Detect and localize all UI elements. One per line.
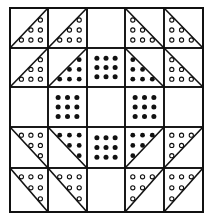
open-dot bbox=[170, 175, 174, 179]
open-dot bbox=[19, 133, 23, 137]
open-dot bbox=[29, 133, 33, 137]
open-dot bbox=[170, 58, 174, 62]
open-dot bbox=[38, 77, 42, 81]
open-dot bbox=[140, 38, 144, 42]
open-dot bbox=[131, 197, 135, 201]
filled-dot bbox=[142, 114, 147, 119]
open-dot bbox=[189, 77, 193, 81]
filled-dot bbox=[113, 74, 118, 79]
open-dot bbox=[29, 175, 33, 179]
filled-dot bbox=[77, 143, 82, 148]
filled-dot bbox=[113, 56, 118, 61]
filled-dot bbox=[67, 143, 72, 148]
filled-dot bbox=[77, 133, 82, 138]
open-dot bbox=[150, 175, 154, 179]
open-dot bbox=[179, 143, 183, 147]
filled-dot bbox=[77, 77, 82, 82]
filled-dot bbox=[130, 67, 135, 72]
filled-dot bbox=[133, 114, 138, 119]
filled-dot bbox=[56, 105, 61, 110]
diagonal-seam bbox=[10, 48, 48, 87]
open-dot bbox=[29, 67, 33, 71]
filled-dot bbox=[94, 145, 99, 150]
filled-dot bbox=[150, 133, 155, 138]
open-dot bbox=[170, 154, 174, 158]
filled-dot bbox=[151, 95, 156, 100]
open-dot bbox=[179, 133, 183, 137]
open-dot bbox=[131, 175, 135, 179]
filled-dot bbox=[130, 57, 135, 62]
filled-dot bbox=[151, 114, 156, 119]
filled-dot bbox=[67, 77, 72, 82]
diagonal-seam bbox=[48, 8, 87, 48]
open-dot bbox=[131, 28, 135, 32]
open-dot bbox=[170, 143, 174, 147]
open-dot bbox=[179, 77, 183, 81]
filled-dot bbox=[142, 105, 147, 110]
open-dot bbox=[38, 143, 42, 147]
diagonal-seam bbox=[125, 8, 164, 48]
quilt-cell bbox=[87, 87, 125, 127]
diagonal-seam bbox=[10, 8, 48, 48]
open-dot bbox=[58, 175, 62, 179]
filled-dot bbox=[77, 67, 82, 72]
filled-dot bbox=[142, 95, 147, 100]
diagonal-seam bbox=[125, 127, 164, 168]
open-dot bbox=[38, 28, 42, 32]
diagonal-seam bbox=[48, 168, 87, 212]
open-dot bbox=[19, 38, 23, 42]
filled-dot bbox=[104, 155, 109, 160]
open-dot bbox=[19, 175, 23, 179]
open-dot bbox=[67, 38, 71, 42]
quilt-cell bbox=[164, 87, 203, 127]
diagonal-seam bbox=[164, 127, 203, 168]
filled-dot bbox=[104, 56, 109, 61]
diagonal-seam bbox=[125, 48, 164, 87]
open-dot bbox=[170, 133, 174, 137]
filled-dot bbox=[104, 65, 109, 70]
open-dot bbox=[38, 154, 42, 158]
open-dot bbox=[170, 186, 174, 190]
filled-dot bbox=[65, 114, 70, 119]
filled-dot bbox=[94, 56, 99, 61]
diagonal-seam bbox=[48, 48, 87, 87]
filled-dot bbox=[130, 77, 135, 82]
open-dot bbox=[77, 186, 81, 190]
open-dot bbox=[140, 175, 144, 179]
open-dot bbox=[131, 18, 135, 22]
open-dot bbox=[29, 143, 33, 147]
open-dot bbox=[29, 77, 33, 81]
filled-dot bbox=[74, 95, 79, 100]
filled-dot bbox=[104, 135, 109, 140]
filled-dot bbox=[130, 143, 135, 148]
filled-dot bbox=[113, 135, 118, 140]
open-dot bbox=[38, 38, 42, 42]
diagonal-seam bbox=[10, 168, 48, 212]
open-dot bbox=[67, 175, 71, 179]
open-dot bbox=[38, 67, 42, 71]
open-dot bbox=[38, 197, 42, 201]
open-dot bbox=[19, 77, 23, 81]
open-dot bbox=[179, 38, 183, 42]
filled-dot bbox=[77, 57, 82, 62]
filled-dot bbox=[130, 153, 135, 158]
filled-dot bbox=[56, 114, 61, 119]
filled-dot bbox=[104, 74, 109, 79]
open-dot bbox=[29, 38, 33, 42]
open-dot bbox=[77, 175, 81, 179]
open-dot bbox=[170, 77, 174, 81]
filled-dot bbox=[133, 105, 138, 110]
open-dot bbox=[67, 186, 71, 190]
quilt-cell bbox=[10, 87, 48, 127]
open-dot bbox=[29, 186, 33, 190]
filled-dot bbox=[67, 133, 72, 138]
open-dot bbox=[77, 197, 81, 201]
open-dot bbox=[140, 28, 144, 32]
filled-dot bbox=[57, 77, 62, 82]
open-dot bbox=[170, 38, 174, 42]
diagonal-seam bbox=[125, 168, 164, 212]
open-dot bbox=[179, 175, 183, 179]
open-dot bbox=[189, 38, 193, 42]
diagonal-seam bbox=[10, 127, 48, 168]
filled-dot bbox=[56, 95, 61, 100]
